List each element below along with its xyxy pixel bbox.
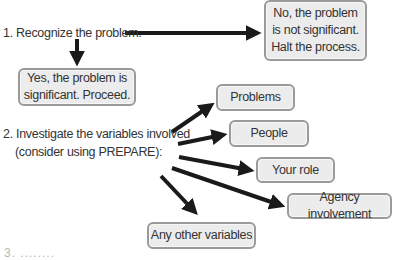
no-line-3: Halt the process. — [271, 39, 360, 56]
variable-label: Your role — [272, 162, 319, 179]
variable-box-people: People — [229, 120, 309, 147]
outcome-not-significant-box: No, the problem is not significant. Halt… — [264, 0, 367, 61]
no-line-2: is not significant. — [271, 22, 360, 39]
outcome-significant-box: Yes, the problem is significant. Proceed… — [18, 68, 136, 106]
variable-box-any-other: Any other variables — [147, 222, 256, 249]
step-2-label-line-1: 2. Investigate the variables involved — [3, 126, 190, 143]
step-2-label-line-2: (consider using PREPARE): — [15, 144, 162, 161]
variable-box-your-role: Your role — [256, 157, 335, 183]
variable-label: Any other variables — [151, 227, 252, 244]
step-1-label: 1. Recognize the problem. — [3, 25, 141, 42]
variable-box-agency-involvement: Agency involvement — [287, 193, 392, 219]
variable-label: People — [250, 125, 287, 142]
arrow-to-any-other — [161, 176, 194, 211]
variable-label: Agency involvement — [289, 189, 390, 223]
cut-off-step-3: 3. ........ — [4, 246, 55, 260]
yes-line-2: significant. Proceed. — [24, 87, 130, 104]
no-line-1: No, the problem — [271, 5, 360, 22]
variable-box-problems: Problems — [216, 84, 295, 111]
yes-line-1: Yes, the problem is — [24, 70, 130, 87]
arrow-to-your-role — [179, 157, 249, 170]
variable-label: Problems — [230, 89, 280, 106]
